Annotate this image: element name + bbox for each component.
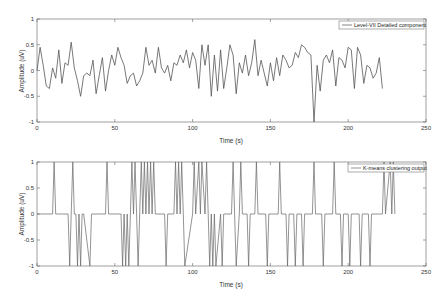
x-tick-label: 0 [35, 269, 39, 275]
y-tick-label: -1 [29, 119, 35, 125]
bottom-legend-label: K-means clustering output [363, 165, 427, 171]
bottom-plot: 050100150200250-1-0.500.51 Amplitude (uV… [18, 159, 432, 289]
bottom-legend: K-means clustering output [348, 164, 427, 172]
bottom-ylabel: Amplitude (uV) [18, 193, 26, 236]
top-plot-frame [37, 19, 426, 122]
x-tick-label: 100 [188, 125, 199, 131]
top-xlabel: Time (s) [219, 137, 243, 145]
y-tick-label: 0.5 [26, 42, 35, 48]
y-tick-label: -1 [29, 263, 35, 269]
top-plot: 050100150200250-1-0.500.51 Amplitude (uV… [18, 16, 432, 145]
y-tick-label: -0.5 [24, 237, 35, 243]
x-tick-label: 200 [343, 125, 354, 131]
y-tick-label: 0 [31, 68, 35, 74]
x-tick-label: 0 [35, 125, 39, 131]
y-tick-label: 0 [31, 211, 35, 217]
top-ylabel: Amplitude (uV) [18, 50, 26, 93]
x-tick-label: 50 [111, 269, 118, 275]
top-legend-label: Level-VII Detailed component [354, 22, 427, 28]
y-tick-label: 1 [31, 16, 35, 22]
y-tick-label: 0.5 [26, 185, 35, 191]
figure: 050100150200250-1-0.500.51 Amplitude (uV… [0, 0, 444, 291]
x-tick-label: 150 [265, 125, 276, 131]
x-tick-label: 250 [421, 269, 432, 275]
y-tick-label: -0.5 [24, 93, 35, 99]
x-tick-label: 250 [421, 125, 432, 131]
y-tick-label: 1 [31, 159, 35, 165]
top-legend: Level-VII Detailed component [339, 21, 427, 29]
bottom-xlabel: Time (s) [219, 281, 243, 289]
x-tick-label: 200 [343, 269, 354, 275]
x-tick-label: 100 [188, 269, 199, 275]
x-tick-label: 50 [111, 125, 118, 131]
x-tick-label: 150 [265, 269, 276, 275]
